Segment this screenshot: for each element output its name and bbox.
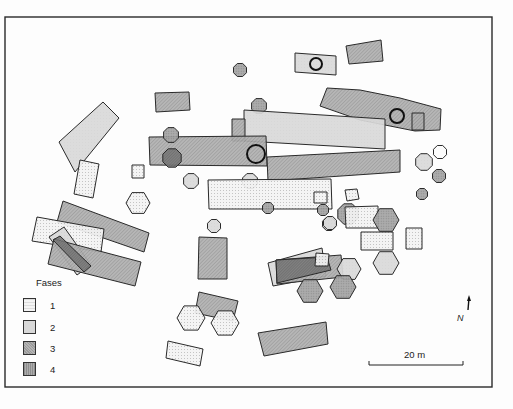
feature-poly-fase-3 <box>155 92 190 112</box>
feature-poly-fase-1 <box>314 192 327 203</box>
feature-blob-fase-2 <box>416 154 433 171</box>
feature-blob-fase-4 <box>417 189 428 200</box>
feature-blob-fase-4 <box>433 170 446 183</box>
north-label: N <box>457 313 464 323</box>
feature-poly-fase-3 <box>267 150 400 181</box>
feature-blob-fase-4 <box>318 205 329 216</box>
legend-swatch-fase-3 <box>23 341 36 355</box>
legend-label: 4 <box>50 364 55 375</box>
legend-item-fase-4: 4 <box>23 362 55 376</box>
legend-title: Fases <box>36 277 62 288</box>
legend-item-fase-3: 3 <box>23 341 55 355</box>
feature-blob-fase-4 <box>234 64 247 77</box>
legend-swatch-fase-2 <box>23 320 36 334</box>
feature-poly-fase-3 <box>198 237 227 279</box>
feature-blob-fase-4 <box>164 128 179 143</box>
feature-blob-fase-2 <box>324 217 337 230</box>
legend-item-fase-1: 1 <box>23 298 55 312</box>
legend-item-fase-2: 2 <box>23 320 55 334</box>
legend-label: 2 <box>50 322 55 333</box>
north-arrow-icon <box>467 295 471 310</box>
feature-poly-fase-1 <box>345 189 359 201</box>
feature-poly-fase-1 <box>132 165 144 178</box>
feature-poly-fase-1 <box>345 206 378 228</box>
feature-poly-fase-2 <box>295 53 336 75</box>
feature-hex-fase-4 <box>297 280 323 303</box>
legend-swatch-fase-4 <box>23 362 36 376</box>
legend-swatch-fase-1 <box>23 298 36 312</box>
feature-hex-fase-2 <box>373 252 399 275</box>
feature-blob-fase-2 <box>184 174 199 189</box>
feature-poly-fase-1 <box>315 253 329 266</box>
feature-poly-fase-1 <box>166 341 203 366</box>
features-layer <box>32 40 447 366</box>
feature-poly-fase-3 <box>346 40 383 64</box>
feature-hex-fase-1 <box>126 193 150 214</box>
feature-blob-fase-2 <box>208 220 221 233</box>
feature-poly-fase-3 <box>412 113 424 130</box>
feature-poly-fase-1 <box>361 232 393 250</box>
legend-label: 3 <box>50 343 55 354</box>
feature-blob-fase-4 <box>263 203 274 214</box>
site-plan-map <box>0 0 513 409</box>
legend-label: 1 <box>50 300 55 311</box>
feature-poly-fase-3 <box>258 322 328 356</box>
feature-blob-fase-0 <box>434 146 447 159</box>
feature-poly-fase-1 <box>406 228 422 249</box>
scale-bar-label: 20 m <box>404 349 425 360</box>
feature-blob-fase-4 <box>163 149 181 167</box>
